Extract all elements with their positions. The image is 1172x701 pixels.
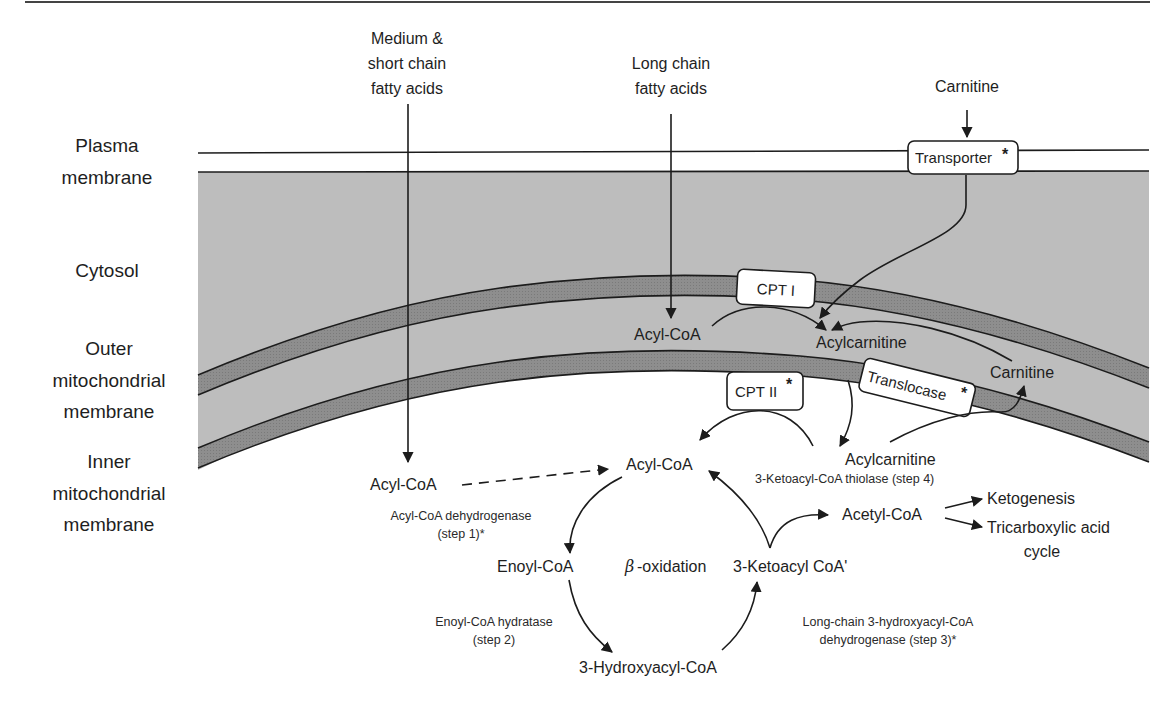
dashed-acyl-coa-arrow [462,469,608,485]
svg-text:cycle: cycle [1024,543,1061,560]
acyl-coa-matrix-left: Acyl-CoA [370,476,437,493]
carnitine-ims: Carnitine [990,364,1054,381]
cycle-arc-step1 [570,477,622,553]
acylcarnitine-ims: Acylcarnitine [816,334,907,351]
fatty-acid-oxidation-diagram: Plasma membrane Cytosol Outer mitochondr… [0,0,1172,701]
svg-text:Long-chain 3-hydroxyacyl-CoA: Long-chain 3-hydroxyacyl-CoA [803,615,975,629]
acylcarnitine-matrix: Acylcarnitine [845,451,936,468]
cpt2-box: CPT II * [727,372,803,410]
svg-text:membrane: membrane [62,167,153,188]
svg-text:β: β [624,557,634,576]
label-medium-short-chain-fatty-acids: Medium & short chain fatty acids [368,30,446,97]
label-outer-mitochondrial-membrane: Outer mitochondrial membrane [53,338,166,422]
acylcarnitine-translocase-path [840,380,852,446]
svg-text:Outer: Outer [85,338,133,359]
ketoacyl-coa: 3-Ketoacyl CoA' [733,558,847,575]
label-plasma-membrane: Plasma membrane [62,135,153,188]
cycle-arc-step3 [722,582,757,650]
svg-text:CPT II: CPT II [735,383,777,400]
acetyl-coa: Acetyl-CoA [842,506,922,523]
enzyme-step2: Enoyl-CoA hydratase (step 2) [435,615,552,647]
svg-text:*: * [786,376,793,393]
cycle-arc-step2 [569,580,612,652]
svg-text:*: * [1002,146,1009,163]
enoyl-coa: Enoyl-CoA [497,558,574,575]
svg-text:Enoyl-CoA hydratase: Enoyl-CoA hydratase [435,615,552,629]
svg-text:Transporter: Transporter [915,149,992,166]
svg-text:mitochondrial: mitochondrial [53,483,166,504]
cpt2-reaction-arc [700,411,813,446]
svg-text:Plasma: Plasma [75,135,139,156]
svg-text:short chain: short chain [368,55,446,72]
svg-text:mitochondrial: mitochondrial [53,370,166,391]
ketogenesis: Ketogenesis [987,490,1075,507]
svg-text:membrane: membrane [64,514,155,535]
enzyme-step3: Long-chain 3-hydroxyacyl-CoA dehydrogena… [803,615,975,647]
svg-text:Inner: Inner [87,451,131,472]
enzyme-step4: 3-Ketoacyl-CoA thiolase (step 4) [755,472,934,486]
svg-text:dehydrogenase (step 3)*: dehydrogenase (step 3)* [820,633,957,647]
svg-text:membrane: membrane [64,401,155,422]
beta-oxidation-label: β -oxidation [624,557,706,576]
svg-text:fatty acids: fatty acids [635,80,707,97]
ketoacyl-to-acetyl-arc [770,515,828,548]
tricarboxylic-acid-cycle: Tricarboxylic acid cycle [987,519,1110,560]
svg-text:Tricarboxylic acid: Tricarboxylic acid [987,519,1110,536]
transporter-box: Transporter * [908,141,1018,174]
label-cytosol: Cytosol [75,260,138,281]
svg-text:(step 1)*: (step 1)* [437,527,484,541]
hydroxyacyl-coa: 3-Hydroxyacyl-CoA [579,659,717,676]
svg-text:Acyl-CoA dehydrogenase: Acyl-CoA dehydrogenase [390,509,531,523]
svg-text:-oxidation: -oxidation [637,558,706,575]
acetyl-to-ketogenesis-arrow [945,499,982,508]
acyl-coa-matrix: Acyl-CoA [626,456,693,473]
svg-text:Long chain: Long chain [632,55,710,72]
svg-text:fatty acids: fatty acids [371,80,443,97]
label-carnitine-input: Carnitine [935,78,999,95]
svg-text:(step 2): (step 2) [473,633,515,647]
label-long-chain-fatty-acids: Long chain fatty acids [632,55,710,97]
acyl-coa-ims: Acyl-CoA [634,326,701,343]
svg-text:CPT I: CPT I [756,280,795,299]
cpt1-box: CPT I [736,269,816,308]
label-inner-mitochondrial-membrane: Inner mitochondrial membrane [53,451,166,535]
acetyl-to-tca-arrow [945,518,982,527]
svg-text:Medium &: Medium & [371,30,443,47]
enzyme-step1: Acyl-CoA dehydrogenase (step 1)* [390,509,531,541]
